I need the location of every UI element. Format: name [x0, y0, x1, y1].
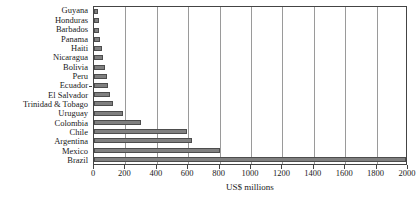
bar-rows [94, 7, 406, 164]
x-tick-label: 1400 [304, 169, 321, 178]
bar [94, 9, 98, 14]
bar [94, 83, 108, 88]
bar-row [94, 155, 406, 164]
x-tick-label: 1600 [336, 169, 353, 178]
bar [94, 111, 123, 116]
x-tick-label: 2000 [399, 169, 416, 178]
bar [94, 37, 100, 42]
bar-row [94, 53, 406, 62]
bar-chart: GuyanaHondurasBarbadosPanamaHaitiNicarag… [0, 0, 417, 202]
category-label: Brazil [0, 156, 91, 165]
category-label: Barbados [0, 25, 91, 34]
bar [94, 101, 113, 106]
bar-row [94, 44, 406, 53]
bar [94, 138, 192, 143]
category-label: Nicaragua [0, 53, 91, 62]
bar-row [94, 25, 406, 34]
bar [94, 46, 102, 51]
x-tick-label: 400 [149, 169, 162, 178]
bar-row [94, 35, 406, 44]
x-tick-label: 1200 [273, 169, 290, 178]
x-axis-ticks: 0200400600800100012001400160018002000 [93, 165, 407, 175]
category-label: Argentina [0, 137, 91, 146]
bar-row [94, 99, 406, 108]
x-tick-label: 1000 [242, 169, 259, 178]
bar [94, 18, 99, 23]
bar [94, 148, 220, 153]
bar [94, 129, 187, 134]
bar-row [94, 90, 406, 99]
category-label: Guyana [0, 6, 91, 15]
bar-row [94, 136, 406, 145]
x-tick-label: 200 [118, 169, 131, 178]
bar [94, 92, 110, 97]
bar-row [94, 62, 406, 71]
x-tick-label: 0 [91, 169, 95, 178]
category-label: Ecuador [0, 81, 91, 90]
bar-row [94, 72, 406, 81]
bar [94, 157, 406, 162]
bar-row [94, 7, 406, 16]
bar-row [94, 127, 406, 136]
x-tick-label: 600 [181, 169, 194, 178]
bar-row [94, 109, 406, 118]
bar-row [94, 118, 406, 127]
category-axis-labels: GuyanaHondurasBarbadosPanamaHaitiNicarag… [0, 6, 91, 165]
plot-area [93, 6, 407, 165]
bar [94, 74, 107, 79]
bar-row [94, 16, 406, 25]
bar-row [94, 146, 406, 155]
x-tick-label: 1800 [367, 169, 384, 178]
bar-row [94, 81, 406, 90]
bar [94, 28, 99, 33]
bar [94, 65, 105, 70]
category-tick [89, 86, 92, 87]
x-tick-label: 800 [212, 169, 225, 178]
category-label: Uruguay [0, 109, 91, 118]
bar [94, 55, 103, 60]
x-axis-title: US$ millions [93, 183, 407, 192]
bar [94, 120, 141, 125]
